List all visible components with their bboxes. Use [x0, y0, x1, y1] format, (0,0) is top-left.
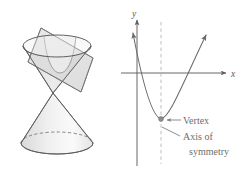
lower-cone: [21, 93, 93, 154]
axis-of-symmetry-leader-line: [162, 127, 180, 136]
upper-cone-rim: [23, 35, 91, 57]
figure-canvas: x y Vertex Axis of symmetry: [0, 0, 246, 170]
upper-cone-rim-group: [23, 35, 91, 57]
y-axis-label: y: [131, 9, 137, 19]
vertex-label: Vertex: [183, 115, 209, 126]
parabola-right-branch: [161, 35, 206, 119]
cone-diagram-group: [21, 28, 93, 154]
x-axis-label: x: [230, 69, 236, 79]
vertex-point-marker: [159, 117, 164, 122]
parabola-graph-group: x y Vertex Axis of symmetry: [121, 9, 236, 166]
lower-cone-body: [21, 93, 93, 154]
axis-of-symmetry-label-line1: Axis of: [183, 131, 213, 142]
axis-of-symmetry-label-line2: symmetry: [189, 146, 229, 157]
conic-parabola-figure: x y Vertex Axis of symmetry: [0, 0, 246, 170]
